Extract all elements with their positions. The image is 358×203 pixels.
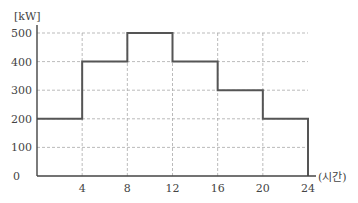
y-tick-label: 100 bbox=[11, 141, 32, 154]
y-tick-label: 200 bbox=[11, 113, 32, 126]
x-tick-labels: 4812162024 bbox=[79, 182, 315, 195]
y-tick-label: 400 bbox=[11, 56, 32, 69]
x-tick-label: 16 bbox=[211, 182, 225, 195]
y-tick-label: 300 bbox=[11, 84, 32, 97]
y-axis-unit: [kW] bbox=[14, 10, 41, 23]
x-tick-label: 20 bbox=[256, 182, 270, 195]
y-tick-labels: 100200300400500 bbox=[11, 27, 32, 154]
x-tick-label: 4 bbox=[79, 182, 86, 195]
y-tick-label: 500 bbox=[11, 27, 32, 40]
x-axis-unit: (시간) bbox=[318, 171, 347, 184]
axes bbox=[37, 25, 316, 176]
x-tick-label: 12 bbox=[166, 182, 180, 195]
x-tick-label: 24 bbox=[301, 182, 315, 195]
x-tick-label: 8 bbox=[124, 182, 131, 195]
step-chart: 100200300400500 4812162024 [kW] (시간) 0 bbox=[0, 0, 358, 203]
origin-label: 0 bbox=[13, 170, 20, 183]
